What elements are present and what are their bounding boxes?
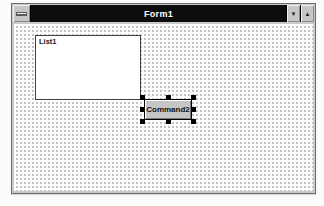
command2-selection-group: Command2 [144, 99, 192, 120]
maximize-icon: ▲ [305, 11, 311, 17]
screenshot-root: Form1 ▼ ▲ List1 Command2 [0, 0, 324, 206]
form-canvas[interactable]: List1 Command2 [14, 24, 313, 191]
control-menu-button[interactable] [13, 5, 31, 22]
command2-button[interactable]: Command2 [144, 99, 192, 120]
selection-handle-middle-left[interactable] [140, 107, 145, 112]
selection-handle-bottom-middle[interactable] [166, 119, 171, 124]
form-designer-window: Form1 ▼ ▲ List1 Command2 [11, 3, 316, 194]
control-menu-icon [16, 12, 27, 16]
listbox-list1[interactable]: List1 [35, 35, 141, 100]
minimize-button[interactable]: ▼ [286, 5, 300, 22]
selection-handle-bottom-left[interactable] [140, 119, 145, 124]
listbox-label: List1 [39, 37, 57, 46]
selection-handle-middle-right[interactable] [191, 107, 196, 112]
selection-handle-top-left[interactable] [140, 95, 145, 100]
window-title-area: Form1 [31, 5, 286, 22]
selection-handle-top-middle[interactable] [166, 95, 171, 100]
titlebar[interactable]: Form1 ▼ ▲ [13, 5, 314, 22]
selection-handle-top-right[interactable] [191, 95, 196, 100]
maximize-button[interactable]: ▲ [300, 5, 314, 22]
minimize-icon: ▼ [291, 11, 297, 17]
window-title: Form1 [144, 9, 173, 19]
selection-handle-bottom-right[interactable] [191, 119, 196, 124]
